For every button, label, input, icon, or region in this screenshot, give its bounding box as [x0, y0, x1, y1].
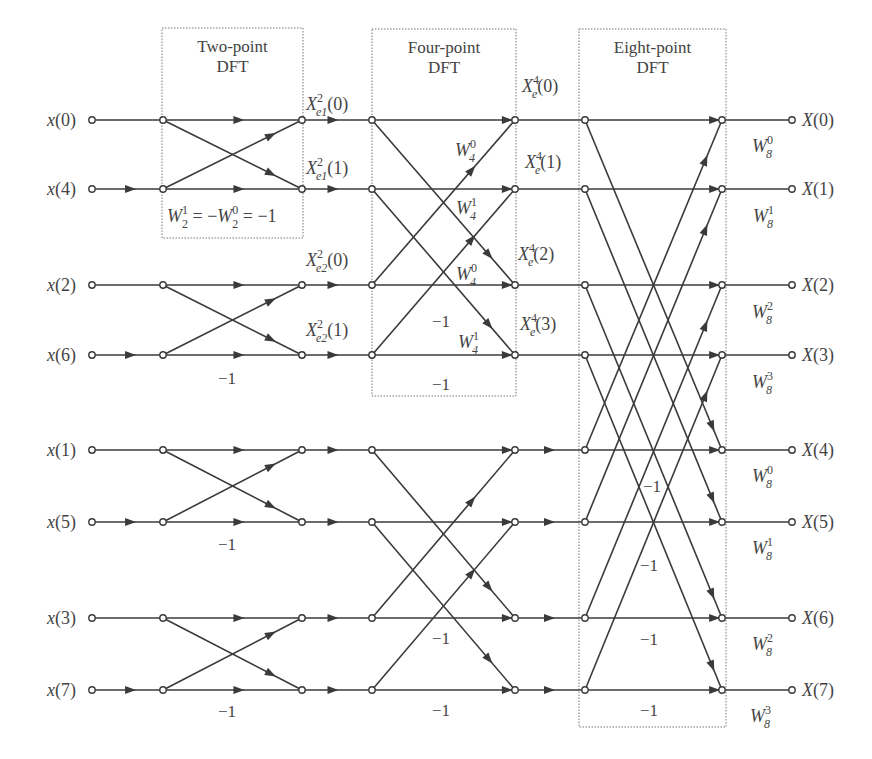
arrow-icon: [328, 686, 339, 694]
arrow-icon: [125, 518, 136, 526]
arrow-icon: [544, 446, 555, 454]
arrow-icon: [706, 492, 718, 505]
input-label: x(7): [46, 680, 76, 701]
arrow-icon: [328, 446, 339, 454]
node-icon: [719, 352, 725, 358]
arrow-icon: [264, 295, 277, 307]
node-icon: [160, 352, 166, 358]
arrow-icon: [706, 659, 718, 672]
node-icon: [719, 282, 725, 288]
node-icon: [160, 186, 166, 192]
node-icon: [789, 282, 795, 288]
fft-flow-graph: Two-pointDFTFour-pointDFTEight-pointDFTx…: [0, 0, 872, 759]
node-icon: [160, 282, 166, 288]
node-icon: [299, 447, 305, 453]
arrow-icon: [328, 185, 339, 193]
node-icon: [582, 117, 588, 123]
node-icon: [369, 282, 375, 288]
node-icon: [299, 687, 305, 693]
node-icon: [369, 186, 375, 192]
minus-one-label: −1: [432, 312, 450, 331]
twiddle-factor-label: W14: [458, 329, 479, 357]
intermediate-label: X4e(2): [517, 241, 554, 269]
output-label: X(6): [801, 608, 834, 629]
output-label: X(5): [801, 512, 834, 533]
arrow-icon: [264, 460, 277, 472]
arrow-icon: [328, 518, 339, 526]
twiddle-identity-label: W12 = −W02 = −1: [167, 203, 277, 231]
arrow-icon: [706, 588, 718, 601]
minus-one-label: −1: [640, 630, 658, 649]
twiddle-factor-label: W28: [752, 299, 773, 327]
arrow-icon: [264, 168, 277, 180]
node-icon: [719, 519, 725, 525]
direction-arrows: [125, 116, 720, 694]
node-icon: [512, 117, 518, 123]
node-icon: [789, 615, 795, 621]
node-icon: [719, 687, 725, 693]
box-subtitle: DFT: [636, 58, 669, 77]
box-subtitle: DFT: [216, 57, 249, 76]
node-icon: [789, 519, 795, 525]
node-icon: [512, 186, 518, 192]
arrow-icon: [233, 446, 244, 454]
box-subtitle: DFT: [428, 58, 461, 77]
twiddle-factor-label: W38: [750, 703, 771, 731]
node-icon: [299, 186, 305, 192]
arrow-icon: [544, 686, 555, 694]
node-icon: [582, 615, 588, 621]
arrow-icon: [233, 116, 244, 124]
minus-one-label: −1: [432, 701, 450, 720]
twiddle-factor-label: W18: [752, 535, 773, 563]
arrow-icon: [125, 351, 136, 359]
node-icon: [369, 687, 375, 693]
twiddle-factor-label: W08: [752, 133, 773, 161]
arrow-icon: [233, 518, 244, 526]
node-icon: [299, 352, 305, 358]
twiddle-factor-label: W14: [456, 195, 477, 223]
node-icon: [789, 186, 795, 192]
node-icon: [89, 447, 95, 453]
output-label: X(1): [801, 179, 834, 200]
node-icon: [582, 282, 588, 288]
arrow-icon: [328, 281, 339, 289]
output-label: X(2): [801, 275, 834, 296]
node-icon: [160, 117, 166, 123]
twiddle-factor-label: W04: [455, 137, 476, 165]
arrow-icon: [125, 185, 136, 193]
output-label: X(7): [801, 680, 834, 701]
node-icon: [369, 447, 375, 453]
twiddle-factor-label: W38: [752, 369, 773, 397]
minus-one-label: −1: [432, 375, 450, 394]
node-icon: [89, 519, 95, 525]
arrow-icon: [125, 686, 136, 694]
arrow-icon: [264, 668, 277, 680]
arrow-icon: [328, 116, 339, 124]
input-label: x(5): [46, 512, 76, 533]
arrow-icon: [233, 281, 244, 289]
arrow-icon: [544, 518, 555, 526]
node-icon: [369, 117, 375, 123]
node-icon: [512, 615, 518, 621]
node-icon: [89, 117, 95, 123]
minus-one-label: −1: [218, 535, 236, 554]
output-label: X(4): [801, 440, 834, 461]
minus-one-label: −1: [640, 701, 658, 720]
node-icon: [719, 447, 725, 453]
minus-one-label: −1: [218, 369, 236, 388]
arrow-icon: [700, 153, 712, 166]
node-icon: [789, 117, 795, 123]
intermediate-label: X2e1(0): [305, 91, 348, 119]
node-icon: [582, 447, 588, 453]
twiddle-factor-label: W18: [753, 203, 774, 231]
arrow-icon: [264, 500, 277, 512]
input-label: x(3): [46, 608, 76, 629]
node-icon: [89, 352, 95, 358]
intermediate-label: X4e(0): [521, 73, 558, 101]
arrow-icon: [233, 686, 244, 694]
arrow-icon: [328, 614, 339, 622]
node-icon: [789, 447, 795, 453]
minus-one-label: −1: [643, 477, 661, 496]
node-icon: [89, 282, 95, 288]
node-icon: [512, 352, 518, 358]
